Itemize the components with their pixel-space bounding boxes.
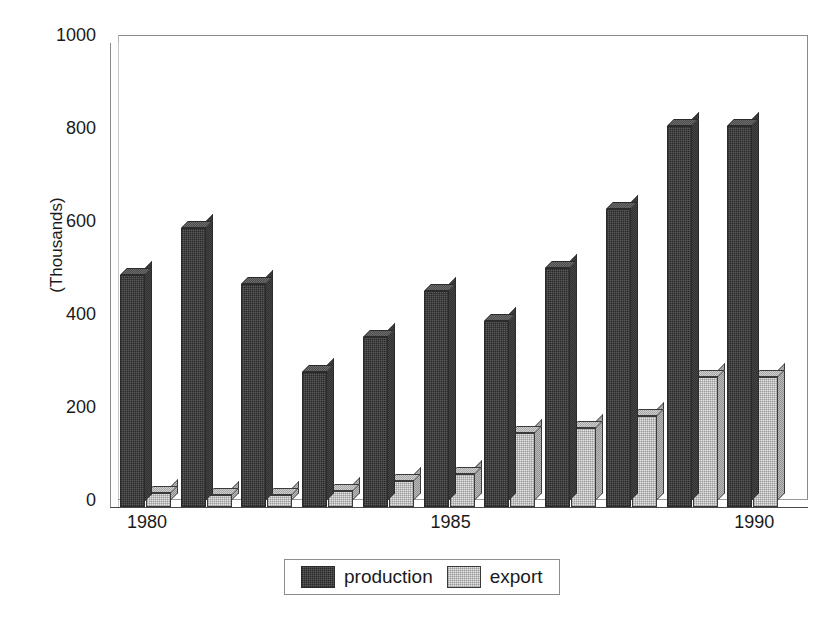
bar-export-1981 — [207, 495, 232, 507]
bar-side-face — [718, 363, 725, 500]
bar-side-face — [414, 467, 421, 500]
bar-production-1983 — [302, 372, 327, 507]
bar-side-face — [631, 195, 638, 500]
bar-production-1986 — [484, 321, 509, 507]
x-axis-tick-labels: 198019851990 — [110, 512, 808, 542]
bar-production-1988 — [606, 209, 631, 507]
bar-front-face — [267, 495, 292, 507]
bar-production-1980 — [120, 275, 145, 508]
x-axis-tick-label: 1990 — [734, 512, 774, 533]
x-axis-tick-label: 1985 — [431, 512, 471, 533]
bar-front-face — [241, 284, 266, 507]
bar-side-face — [145, 261, 152, 501]
bar-side-face — [266, 270, 273, 500]
plot-area — [110, 35, 808, 508]
legend-label-production: production — [344, 566, 433, 588]
y-axis-tick-label: 800 — [34, 119, 96, 137]
bar-front-face — [606, 209, 631, 507]
bar-production-1981 — [181, 228, 206, 507]
bar-front-face — [363, 337, 388, 507]
bar-side-face — [692, 112, 699, 500]
x-axis-baseline — [110, 507, 808, 508]
bar-group-container — [110, 35, 808, 508]
bar-front-face — [181, 228, 206, 507]
y-axis-tick-label: 1000 — [34, 26, 96, 44]
export-swatch-icon — [447, 566, 481, 588]
y-axis-tick-labels: 02004006008001000 — [34, 0, 96, 621]
bar-front-face — [207, 495, 232, 507]
bar-production-1989 — [667, 126, 692, 507]
bar-front-face — [727, 126, 752, 507]
production-swatch-icon — [301, 566, 335, 588]
bar-production-1984 — [363, 337, 388, 507]
bar-production-1987 — [545, 268, 570, 507]
bar-side-face — [388, 323, 395, 500]
bar-side-face — [449, 277, 456, 500]
bar-production-1985 — [424, 291, 449, 507]
bar-front-face — [120, 275, 145, 508]
bar-side-face — [327, 358, 334, 500]
bar-export-1982 — [267, 495, 292, 507]
bar-front-face — [302, 372, 327, 507]
x-axis-tick-label: 1980 — [127, 512, 167, 533]
bar-side-face — [778, 363, 785, 500]
bar-front-face — [667, 126, 692, 507]
bar-chart: (Thousands) 02004006008001000 1980198519… — [0, 0, 838, 621]
legend-item-production: production — [301, 566, 433, 588]
bar-production-1982 — [241, 284, 266, 507]
legend-label-export: export — [490, 566, 543, 588]
bar-front-face — [545, 268, 570, 507]
y-axis-tick-label: 400 — [34, 305, 96, 323]
bar-side-face — [570, 254, 577, 500]
y-axis-tick-label: 600 — [34, 212, 96, 230]
y-axis-tick-label: 200 — [34, 398, 96, 416]
bar-side-face — [206, 214, 213, 500]
bar-front-face — [484, 321, 509, 507]
bar-side-face — [752, 112, 759, 500]
legend-item-export: export — [447, 566, 543, 588]
bar-front-face — [424, 291, 449, 507]
chart-legend: production export — [284, 559, 560, 595]
bar-production-1990 — [727, 126, 752, 507]
bar-side-face — [509, 307, 516, 500]
y-axis-tick-label: 0 — [34, 491, 96, 509]
bar-side-face — [657, 402, 664, 500]
